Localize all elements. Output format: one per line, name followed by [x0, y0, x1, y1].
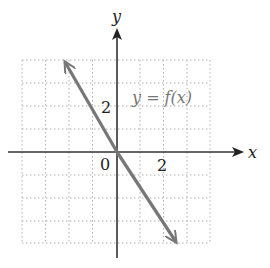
x-tick-label-2: 2 [157, 156, 167, 175]
function-label: y = f(x) [131, 88, 192, 107]
origin-label: 0 [100, 155, 110, 174]
y-tick-label-2: 2 [101, 98, 111, 117]
x-axis-label: x [248, 143, 257, 162]
function-graph: x y 0 2 2 y = f(x) [0, 0, 270, 268]
y-axis-label: y [111, 7, 122, 26]
